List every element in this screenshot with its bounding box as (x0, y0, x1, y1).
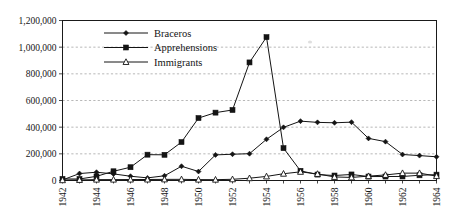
line-chart: 0200,000400,000600,000800,0001,000,0001,… (0, 0, 450, 223)
x-axis-label-1964: 1964 (432, 187, 442, 206)
legend-label-braceros: Braceros (154, 28, 191, 39)
x-axis: 1942194419461948195019521954195619581960… (58, 181, 442, 207)
chart-legend: BracerosApprehensionsImmigrants (104, 28, 217, 68)
x-axis-label-1962: 1962 (398, 187, 408, 206)
diamond-marker-1963 (417, 153, 422, 158)
x-axis-label-1958: 1958 (330, 187, 340, 206)
diamond-marker-1956 (298, 119, 303, 124)
y-axis-label-200000: 200,000 (26, 149, 57, 159)
square-marker-1952 (230, 107, 235, 112)
x-axis-label-1946: 1946 (126, 187, 136, 206)
series-line-braceros (63, 121, 437, 180)
x-axis-label-1950: 1950 (194, 187, 204, 206)
y-gridlines: 0200,000400,000600,000800,0001,000,0001,… (19, 16, 437, 186)
y-axis-label-0: 0 (52, 176, 57, 186)
x-axis-label-1948: 1948 (160, 187, 170, 206)
legend-item-apprehensions: Apprehensions (104, 42, 217, 53)
diamond-marker-icon (124, 31, 129, 36)
diamond-marker-1952 (230, 152, 235, 157)
square-marker-1945 (111, 169, 116, 174)
legend-label-apprehensions: Apprehensions (154, 42, 217, 53)
series-apprehensions (60, 35, 439, 182)
square-marker-1950 (196, 116, 201, 121)
diamond-marker-1949 (179, 164, 184, 169)
legend-item-braceros: Braceros (104, 28, 191, 39)
x-axis-label-1952: 1952 (228, 187, 238, 206)
square-marker-1955 (281, 146, 286, 151)
x-axis-label-1956: 1956 (296, 187, 306, 206)
y-axis-label-1200000: 1,200,000 (19, 16, 57, 26)
diamond-marker-1964 (434, 154, 439, 159)
y-axis-label-800000: 800,000 (26, 69, 57, 79)
square-marker-1953 (247, 60, 252, 65)
x-axis-label-1954: 1954 (262, 187, 272, 206)
square-marker-1954 (264, 35, 269, 40)
legend-item-immigrants: Immigrants (104, 57, 202, 68)
legend-label-immigrants: Immigrants (154, 57, 202, 68)
y-axis-label-400000: 400,000 (26, 123, 57, 133)
square-marker-icon (124, 45, 129, 50)
y-axis-label-1000000: 1,000,000 (19, 43, 57, 53)
series-braceros (60, 119, 439, 183)
diamond-marker-1943 (77, 171, 82, 176)
square-marker-1948 (162, 152, 167, 157)
diamond-marker-1957 (315, 120, 320, 125)
chart-canvas: 0200,000400,000600,000800,0001,000,0001,… (0, 0, 450, 223)
scan-artifact-speck (308, 41, 312, 44)
x-axis-label-1942: 1942 (58, 187, 68, 206)
square-marker-1946 (128, 165, 133, 170)
square-marker-1951 (213, 110, 218, 115)
series-line-apprehensions (63, 37, 437, 179)
x-axis-label-1944: 1944 (92, 187, 102, 206)
y-axis-label-600000: 600,000 (26, 96, 57, 106)
x-axis-label-1960: 1960 (364, 187, 374, 206)
square-marker-1947 (145, 152, 150, 157)
square-marker-1949 (179, 140, 184, 145)
diamond-marker-1958 (332, 120, 337, 125)
